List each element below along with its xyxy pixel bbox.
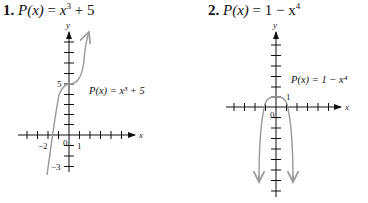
graph-2-x-label: x bbox=[344, 102, 349, 112]
graph-1-tick-neg2: −2 bbox=[38, 141, 48, 151]
graph-2-curve-label: P(x) = 1 − x⁴ bbox=[290, 74, 348, 86]
graph-1-curve-label: P(x) = x³ + 5 bbox=[88, 85, 145, 97]
graph-1-y-label: y bbox=[65, 20, 70, 30]
graph-1-tick-neg3: −3 bbox=[51, 162, 61, 172]
graph-1-tick-0: 0 bbox=[63, 138, 68, 148]
graph-2-tick-1: 1 bbox=[286, 92, 291, 102]
graphs-canvas: y x 5 −2 0 1 −3 P(x) = x³ + 5 bbox=[0, 0, 368, 203]
graph-1-curve bbox=[47, 32, 89, 175]
graph-2-tick-0: 0 bbox=[270, 110, 275, 120]
graph-1-tick-1: 1 bbox=[77, 141, 82, 151]
graph-1-tick-5: 5 bbox=[57, 79, 62, 89]
graph-2: y x 1 0 P(x) = 1 − x⁴ bbox=[226, 20, 349, 197]
graph-2-y-label: y bbox=[272, 20, 277, 30]
graph-1-x-label: x bbox=[138, 130, 143, 140]
graph-1: y x 5 −2 0 1 −3 P(x) = x³ + 5 bbox=[18, 20, 145, 175]
